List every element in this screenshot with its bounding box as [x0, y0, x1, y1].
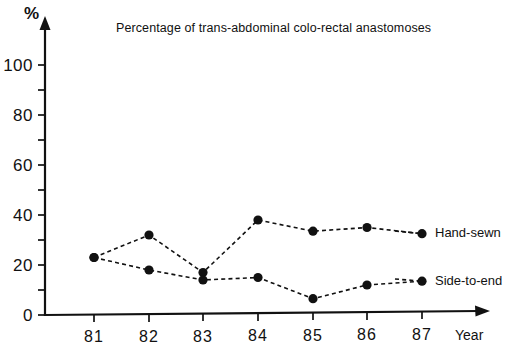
y-axis-arrow-icon [40, 16, 51, 30]
y-tick-label-40: 40 [0, 207, 33, 224]
y-tick-label-20: 20 [0, 257, 33, 274]
x-tick-label-81: 81 [69, 329, 119, 345]
data-point [253, 273, 262, 282]
x-axis-label: Year [455, 328, 483, 342]
y-tick-label-0: 0 [0, 307, 33, 324]
data-point [308, 294, 317, 303]
y-axis-label: % [24, 5, 39, 22]
series-hand-sewn-line [94, 220, 422, 273]
data-point [89, 253, 98, 262]
x-tick-label-82: 82 [124, 329, 174, 345]
chart-canvas [0, 0, 512, 350]
data-point [144, 230, 153, 239]
x-tick-label-86: 86 [342, 327, 392, 343]
x-tick-label-85: 85 [288, 328, 338, 344]
chart-figure: Percentage of trans-abdominal colo-recta… [0, 0, 512, 350]
chart-title: Percentage of trans-abdominal colo-recta… [116, 22, 431, 35]
data-point [198, 275, 207, 284]
y-tick-label-80: 80 [0, 107, 33, 124]
x-axis-arrow-icon [475, 306, 490, 317]
data-point [144, 265, 153, 274]
legend-label-hand-sewn: Hand-sewn [435, 226, 501, 239]
x-tick-label-83: 83 [178, 329, 228, 345]
legend-label-side-to-end: Side-to-end [435, 274, 502, 287]
x-tick-label-84: 84 [233, 328, 283, 344]
y-tick-label-60: 60 [0, 157, 33, 174]
series-side-to-end [89, 253, 426, 303]
data-point [308, 227, 317, 236]
x-axis [45, 306, 490, 317]
x-tick-label-87: 87 [397, 327, 447, 343]
data-point [362, 280, 371, 289]
data-point [253, 215, 262, 224]
y-tick-label-100: 100 [0, 57, 33, 74]
data-point [362, 223, 371, 232]
